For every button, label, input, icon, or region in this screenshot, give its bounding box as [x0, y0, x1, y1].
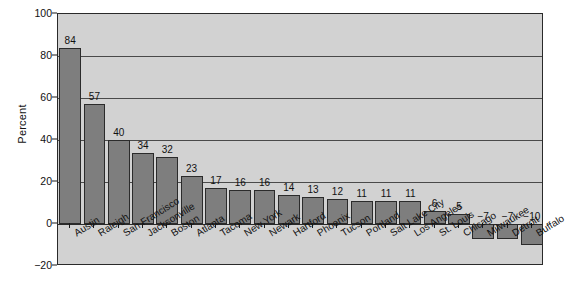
- bar-value-label: 40: [102, 127, 136, 138]
- y-axis-tick-label: 80: [22, 49, 52, 61]
- y-axis-tick-labels: −20020406080100: [22, 0, 52, 285]
- y-axis-tick-label: −20: [22, 259, 52, 271]
- bar-value-label: 32: [150, 144, 184, 155]
- bar-value-label: 84: [57, 35, 87, 46]
- bar-value-label: 11: [393, 188, 427, 199]
- bar: [84, 104, 106, 224]
- gridline: [58, 56, 542, 57]
- bar-value-label: 23: [175, 163, 209, 174]
- bar: [59, 48, 81, 224]
- gridline: [58, 98, 542, 99]
- y-axis-tick-label: 100: [22, 7, 52, 19]
- y-axis-tick-label: 60: [22, 91, 52, 103]
- bar: [108, 140, 130, 224]
- y-axis-tick-label: 40: [22, 133, 52, 145]
- y-axis-tick-label: 0: [22, 217, 52, 229]
- y-axis-tick-label: 20: [22, 175, 52, 187]
- x-axis-tick-mark: [69, 223, 70, 228]
- bar-value-label: 57: [78, 91, 112, 102]
